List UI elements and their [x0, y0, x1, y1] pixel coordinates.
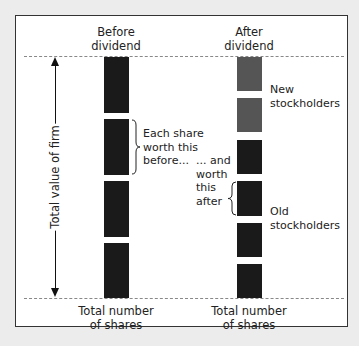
new-stockholders-line: stockholders — [270, 97, 340, 111]
after-new-share-bar — [237, 57, 262, 91]
before-brace-line: before... — [143, 154, 204, 168]
before-brace-line: worth this — [143, 141, 204, 155]
after-title-line2: dividend — [209, 39, 289, 53]
before-title: Before dividend — [76, 25, 156, 53]
before-footer: Total number of shares — [66, 304, 166, 332]
after-brace-label: ... and worth this after — [196, 154, 231, 208]
after-old-share-bar — [237, 140, 262, 174]
before-share-bar — [104, 119, 129, 175]
after-brace-line: ... and — [196, 154, 231, 168]
after-footer: Total number of shares — [199, 304, 299, 332]
old-stockholders-label: Old stockholders — [270, 205, 340, 232]
old-stockholders-line: stockholders — [270, 219, 340, 233]
top-dashed-line — [24, 56, 344, 57]
before-brace-line: Each share — [143, 127, 204, 141]
before-footer-line1: Total number — [66, 304, 166, 318]
after-old-share-bar — [237, 264, 262, 298]
before-brace-label: Each share worth this before... — [143, 127, 204, 168]
bottom-dashed-line — [24, 298, 344, 299]
after-footer-line1: Total number — [199, 304, 299, 318]
before-title-line2: dividend — [76, 39, 156, 53]
old-stockholders-line: Old — [270, 205, 340, 219]
new-stockholders-label: New stockholders — [270, 83, 340, 110]
before-brace-icon — [131, 119, 141, 175]
after-old-share-bar — [237, 181, 262, 216]
arrow-down-icon — [51, 288, 59, 297]
new-stockholders-line: New — [270, 83, 340, 97]
before-share-bar — [104, 243, 129, 298]
after-brace-line: after — [196, 195, 231, 209]
before-share-bar — [104, 181, 129, 237]
before-share-bar — [104, 57, 129, 113]
after-footer-line2: of shares — [199, 318, 299, 332]
before-footer-line2: of shares — [66, 318, 166, 332]
before-title-line1: Before — [76, 25, 156, 39]
after-title-line1: After — [209, 25, 289, 39]
after-brace-line: worth — [196, 168, 231, 182]
total-value-label: Total value of firm — [48, 123, 62, 230]
diagram-frame — [15, 15, 348, 327]
after-title: After dividend — [209, 25, 289, 53]
after-new-share-bar — [237, 98, 262, 132]
after-brace-line: this — [196, 181, 231, 195]
after-old-share-bar — [237, 223, 262, 257]
